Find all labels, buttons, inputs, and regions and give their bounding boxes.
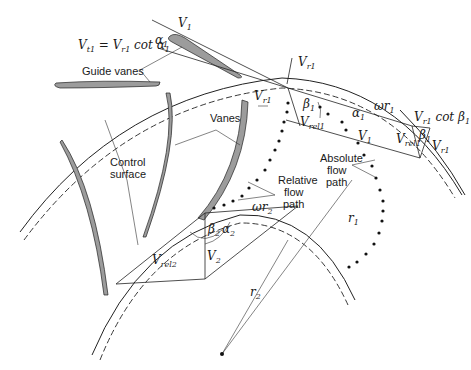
- relative-flow-label-1: Relative: [278, 174, 318, 186]
- r2-label: r2: [250, 285, 261, 301]
- omega-r2-label: ωr2: [252, 200, 273, 216]
- absolute-flow-label-1: Absolute: [320, 152, 363, 164]
- control-surface-label-1: Control: [110, 156, 145, 168]
- control-surface-label-2: surface: [110, 168, 146, 180]
- alpha1-top-label: α1: [155, 33, 168, 49]
- vrel1-right-label: Vrel1: [396, 132, 421, 148]
- absolute-flow-label-2: flow: [327, 164, 347, 176]
- v2-label: V2: [207, 249, 221, 265]
- vrel1-label: Vrel1: [300, 115, 325, 131]
- v1-top-label: V1: [178, 16, 192, 32]
- vrel2-label: Vrel2: [152, 253, 177, 269]
- beta2-label: β2: [207, 222, 220, 238]
- absolute-flow-label-3: path: [326, 176, 347, 188]
- vr1-right-label: Vr1: [432, 139, 450, 155]
- guide-vanes-label: Guide vanes: [82, 65, 144, 77]
- r1-label: r1: [348, 211, 359, 227]
- alpha2-label: α2: [222, 222, 235, 238]
- relative-flow-label-3: path: [283, 198, 304, 210]
- v1-mid-label: V1: [358, 129, 372, 145]
- relative-flow-label-2: flow: [284, 186, 304, 198]
- vr1-cot-beta1-label: Vr1 cot β1: [414, 110, 470, 126]
- inlet-velocity-triangle: [152, 20, 430, 158]
- omega-r1-label: ωr1: [374, 99, 395, 115]
- turbine-velocity-diagram: Guide vanes Vanes Control surface Relati…: [0, 0, 471, 370]
- vanes-label: Vanes: [210, 112, 241, 124]
- beta1-label: β1: [302, 97, 315, 113]
- inner-control-surface: [92, 215, 355, 360]
- alpha1-mid-label: α1: [352, 106, 365, 122]
- vr1-top-label: Vr1: [298, 55, 316, 71]
- vr1-left-label: Vr1: [254, 89, 272, 105]
